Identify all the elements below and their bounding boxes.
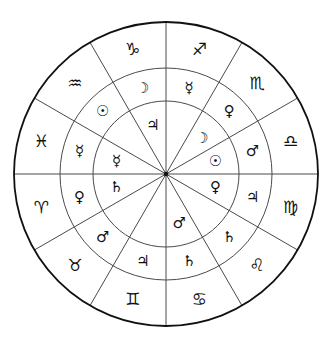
planet-inner-mars-icon: ♂ xyxy=(172,214,185,232)
zodiac-leo-icon: ♌ xyxy=(250,255,265,275)
zodiac-pisces-icon: ♓ xyxy=(34,131,49,151)
center-point xyxy=(164,172,168,176)
planet-middle-venus-icon: ♀ xyxy=(224,102,235,120)
planet-middle-jupiter-icon: ♃ xyxy=(246,188,259,206)
zodiac-virgo-icon: ♍ xyxy=(283,197,298,217)
planet-middle-jupiter-icon: ♃ xyxy=(136,252,149,270)
planet-middle-venus-icon: ♀ xyxy=(74,188,85,206)
planet-inner-mercury-icon: ☿ xyxy=(112,152,121,170)
zodiac-sagittarius-icon: ♐ xyxy=(192,39,207,59)
planet-inner-sun-icon: ☉ xyxy=(209,152,222,170)
planet-inner-jupiter-icon: ♃ xyxy=(146,116,159,134)
planet-middle-sun-icon: ☉ xyxy=(96,102,109,120)
planet-middle-mars-icon: ♂ xyxy=(246,142,259,160)
zodiac-cancer-icon: ♋ xyxy=(192,289,207,309)
zodiac-scorpio-icon: ♏ xyxy=(250,73,265,93)
planet-middle-saturn-icon: ♄ xyxy=(223,228,236,246)
planet-middle-mars-icon: ♂ xyxy=(96,228,109,246)
zodiac-capricorn-icon: ♑ xyxy=(125,39,140,59)
planet-middle-saturn-icon: ♄ xyxy=(182,252,195,270)
zodiac-wheel-diagram: ♐♏♎♍♌♋♊♉♈♓♒♑ ☿♀♂♃♄♄♃♂♀☿☉☽ ☽☉♀♂♄☿♃ xyxy=(0,0,328,344)
zodiac-taurus-icon: ♉ xyxy=(67,255,82,275)
planet-middle-mercury-icon: ☿ xyxy=(75,142,84,160)
zodiac-aries-icon: ♈ xyxy=(34,197,49,217)
zodiac-gemini-icon: ♊ xyxy=(125,289,140,309)
planet-inner-moon-icon: ☽ xyxy=(195,129,208,147)
planet-middle-mercury-icon: ☿ xyxy=(185,79,194,97)
planet-inner-venus-icon: ♀ xyxy=(210,178,221,196)
planet-inner-saturn-icon: ♄ xyxy=(110,178,123,196)
zodiac-libra-icon: ♎ xyxy=(283,131,298,151)
planet-middle-moon-icon: ☽ xyxy=(136,79,149,97)
zodiac-aquarius-icon: ♒ xyxy=(67,73,82,93)
